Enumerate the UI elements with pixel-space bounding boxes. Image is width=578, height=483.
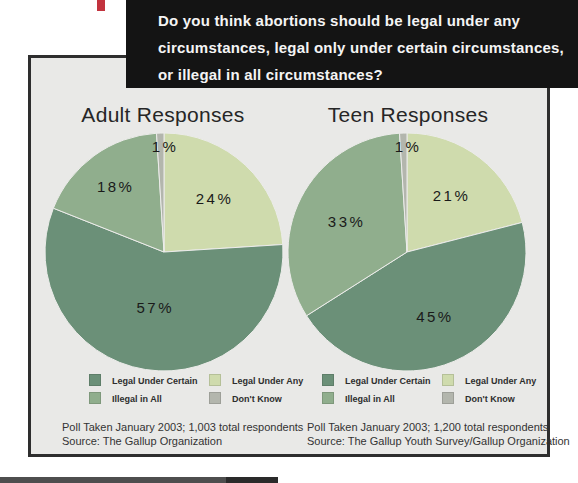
teen-pie-chart [286, 131, 528, 373]
question-line-3: or illegal in all circumstances? [158, 61, 564, 88]
adult-legend-label-illegal-in-all: Illegal in All [112, 394, 162, 404]
teen-legend-label-legal-under-any: Legal Under Any [465, 376, 536, 386]
question-line-2: circumstances, legal only under certain … [158, 34, 564, 61]
teen-legend-swatch-legal-under-certain [322, 374, 334, 386]
teen-legend-label-illegal-in-all: Illegal in All [345, 394, 395, 404]
adult-pie-chart [43, 131, 285, 373]
page-edge-red-tab [97, 0, 105, 11]
teen-legend-swatch-don-t-know [442, 392, 454, 404]
adult-legend-swatch-illegal-in-all [89, 392, 101, 404]
adult-slice-label-legal-under-any: 24% [196, 190, 234, 207]
adult-footnote-1: Poll Taken January 2003; 1,003 total res… [62, 421, 303, 435]
teen-legend-swatch-illegal-in-all [322, 392, 334, 404]
teen-chart-title: Teen Responses [288, 103, 528, 127]
question-line-1: Do you think abortions should be legal u… [158, 7, 564, 34]
adult-legend-label-don-t-know: Don't Know [232, 394, 282, 404]
teen-slice-label-legal-under-certain: 45% [416, 308, 454, 325]
teen-legend-label-don-t-know: Don't Know [465, 394, 515, 404]
adult-legend-swatch-legal-under-any [209, 374, 221, 386]
adult-legend-label-legal-under-any: Legal Under Any [232, 376, 303, 386]
teen-footnote-1: Poll Taken January 2003; 1,200 total res… [307, 421, 548, 435]
adult-legend-label-legal-under-certain: Legal Under Certain [112, 376, 198, 386]
adult-legend-swatch-legal-under-certain [89, 374, 101, 386]
teen-legend-swatch-legal-under-any [442, 374, 454, 386]
adult-slice-label-don-t-know: 1% [152, 138, 179, 155]
teen-footnote-2: Source: The Gallup Youth Survey/Gallup O… [307, 435, 570, 449]
adult-slice-label-illegal-in-all: 18% [97, 177, 135, 194]
adult-chart-title: Adult Responses [43, 103, 283, 127]
next-section-bar-cap [226, 477, 278, 483]
teen-slice-label-legal-under-any: 21% [433, 186, 471, 203]
next-section-bar [0, 477, 278, 483]
adult-slice-label-legal-under-certain: 57% [137, 299, 175, 316]
teen-legend-label-legal-under-certain: Legal Under Certain [345, 376, 431, 386]
teen-slice-label-illegal-in-all: 33% [328, 213, 366, 230]
teen-slice-label-don-t-know: 1% [395, 138, 422, 155]
adult-footnote-2: Source: The Gallup Organization [62, 435, 222, 449]
adult-legend-swatch-don-t-know [209, 392, 221, 404]
question-header: Do you think abortions should be legal u… [126, 0, 578, 88]
